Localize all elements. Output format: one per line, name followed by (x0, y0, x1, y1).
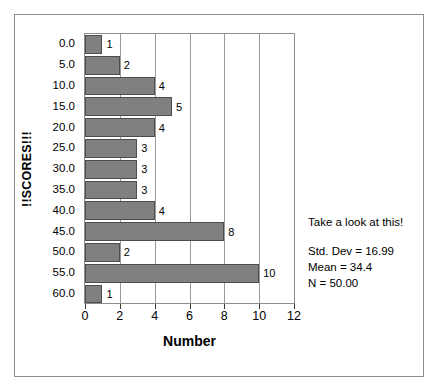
bar (85, 97, 172, 116)
y-axis-title-label: !!SCORES!!! (20, 131, 34, 207)
y-axis-tick-label: 0.0 (34, 33, 80, 54)
chart-figure: !!SCORES!!! 0.05.010.015.020.025.030.035… (0, 0, 439, 391)
x-axis-tick-label: 10 (252, 309, 266, 323)
bar-row: 2 (85, 55, 294, 76)
bar-row: 1 (85, 284, 294, 305)
bar-value-label: 10 (263, 268, 275, 279)
bar (85, 222, 224, 241)
bar (85, 77, 155, 96)
bar-row: 4 (85, 200, 294, 221)
y-axis-tick-label: 30.0 (34, 158, 80, 179)
bar (85, 118, 155, 137)
y-axis-tick-label: 60.0 (34, 283, 80, 304)
y-axis-tick-label: 50.0 (34, 241, 80, 262)
bar-row: 4 (85, 76, 294, 97)
annotation-block: Take a look at this! Std. Dev = 16.99Mea… (308, 216, 416, 293)
bar (85, 285, 102, 304)
y-axis-tick-label: 35.0 (34, 179, 80, 200)
bar-value-label: 3 (141, 143, 147, 154)
bar-value-label: 1 (106, 288, 112, 299)
annotation-stats: Std. Dev = 16.99Mean = 34.4N = 50.00 (308, 245, 416, 289)
bar-row: 10 (85, 263, 294, 284)
y-axis-tick-label: 20.0 (34, 116, 80, 137)
bars-container: 12454333482101 (85, 34, 294, 303)
bar-row: 3 (85, 159, 294, 180)
bar (85, 201, 155, 220)
y-axis-tick-label: 10.0 (34, 75, 80, 96)
bar-row: 3 (85, 138, 294, 159)
y-axis-tick-label: 25.0 (34, 137, 80, 158)
x-axis-tick-labels: 024681012 (84, 309, 295, 325)
bar (85, 243, 120, 262)
bar-value-label: 4 (159, 122, 165, 133)
y-axis-tick-label: 45.0 (34, 220, 80, 241)
annotation-stat-line: Mean = 34.4 (308, 261, 416, 273)
x-axis-tick-label: 6 (186, 309, 193, 323)
x-axis-tick-label: 8 (221, 309, 228, 323)
bar-value-label: 2 (124, 60, 130, 71)
bar-value-label: 3 (141, 164, 147, 175)
bar (85, 264, 259, 283)
bar-value-label: 5 (176, 101, 182, 112)
x-axis-tick-label: 0 (82, 309, 89, 323)
bar (85, 160, 137, 179)
bar (85, 139, 137, 158)
bar-value-label: 8 (228, 226, 234, 237)
annotation-stat-line: N = 50.00 (308, 277, 416, 289)
bar-row: 8 (85, 221, 294, 242)
bar-value-label: 3 (141, 184, 147, 195)
x-axis-tick-label: 12 (287, 309, 301, 323)
plot-area: 12454333482101 (84, 33, 295, 304)
x-axis-tick-label: 4 (151, 309, 158, 323)
bar-row: 2 (85, 242, 294, 263)
annotation-headline: Take a look at this! (308, 216, 416, 228)
bar-row: 3 (85, 180, 294, 201)
bar-row: 5 (85, 96, 294, 117)
y-axis-tick-label: 55.0 (34, 262, 80, 283)
bar-value-label: 2 (124, 247, 130, 258)
x-axis-title: Number (84, 333, 295, 349)
bar-value-label: 4 (159, 205, 165, 216)
bar-value-label: 4 (159, 80, 165, 91)
y-axis-tick-label: 5.0 (34, 54, 80, 75)
y-axis-tick-label: 15.0 (34, 95, 80, 116)
y-axis-tick-labels: 0.05.010.015.020.025.030.035.040.045.050… (34, 33, 80, 304)
bar-row: 4 (85, 117, 294, 138)
bar-value-label: 1 (106, 39, 112, 50)
bar-row: 1 (85, 34, 294, 55)
bar (85, 56, 120, 75)
annotation-stat-line: Std. Dev = 16.99 (308, 245, 416, 257)
x-axis-tick-label: 2 (116, 309, 123, 323)
bar (85, 181, 137, 200)
bar (85, 35, 102, 54)
y-axis-tick-label: 40.0 (34, 199, 80, 220)
